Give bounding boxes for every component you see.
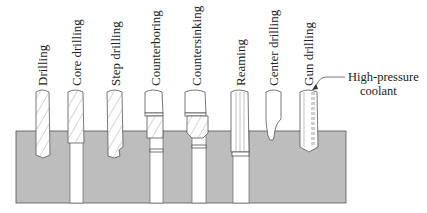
label-core-drilling: Core drilling	[69, 19, 84, 86]
step-drilling-tool	[107, 90, 123, 158]
label-step-drilling: Step drilling	[108, 21, 123, 86]
callout-line-2: coolant	[360, 84, 397, 98]
coolant-callout-leader	[312, 77, 345, 90]
label-countersinking: Countersinking	[189, 5, 204, 86]
core-drilling-tool	[68, 90, 84, 143]
hole-making-operations-diagram: Drilling Core drilling Step drilling Cou…	[0, 0, 427, 213]
callout-line-1: High-pressure	[348, 70, 419, 84]
label-center-drilling: Center drilling	[266, 9, 281, 86]
counterboring-hole	[150, 131, 163, 203]
countersinking-hole	[192, 131, 206, 203]
drilling-tool	[36, 90, 50, 158]
label-reaming: Reaming	[233, 39, 248, 86]
workpiece-block	[16, 131, 346, 203]
label-gun-drilling: Gun drilling	[301, 22, 316, 86]
reaming-tool	[231, 90, 249, 156]
label-counterboring: Counterboring	[148, 10, 163, 86]
gun-drilling-tool	[300, 90, 318, 152]
label-drilling: Drilling	[35, 44, 50, 86]
